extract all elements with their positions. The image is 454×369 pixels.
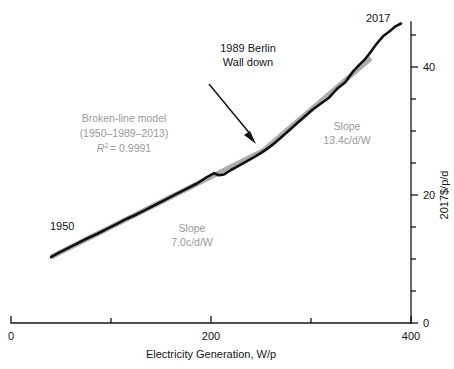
start-year-label: 1950: [50, 220, 74, 232]
slope-upper-value: 13.4c/d/W: [323, 134, 370, 146]
x-tick-label-0: 0: [8, 330, 14, 342]
r-squared-value: = 0.9991: [110, 142, 151, 154]
callout-line-2: Wall down: [223, 56, 273, 68]
chart-figure: 0 200 400 Electricity Generation, W/p 0 …: [0, 0, 454, 369]
slope-upper-title: Slope: [334, 120, 361, 132]
slope-lower-value: 7.0c/d/W: [171, 236, 213, 248]
y-axis-title: 2017$/p/d: [438, 171, 450, 220]
x-tick-label-200: 200: [202, 330, 220, 342]
chart-canvas: 0 200 400 Electricity Generation, W/p 0 …: [0, 0, 454, 369]
end-year-label: 2017: [366, 12, 390, 24]
slope-lower-title: Slope: [179, 222, 206, 234]
y-tick-label-0: 0: [423, 317, 429, 329]
y-tick-label-40: 40: [423, 61, 435, 73]
x-tick-label-400: 400: [402, 330, 420, 342]
model-annotation-line-2: (1950–1989–2013): [80, 127, 169, 139]
r-squared-exponent: 2: [104, 141, 108, 150]
callout-line-1: 1989 Berlin: [220, 42, 276, 54]
x-axis-title: Electricity Generation, W/p: [146, 348, 276, 360]
y-tick-label-20: 20: [423, 189, 435, 201]
model-annotation-line-1: Broken-line model: [82, 112, 167, 124]
